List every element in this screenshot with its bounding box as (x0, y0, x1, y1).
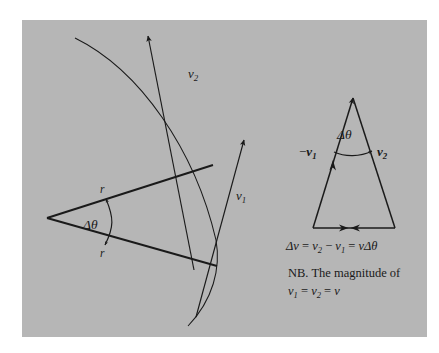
radius-label-lower: r (100, 247, 105, 259)
note-line-magnitude: NB. The magnitude of (288, 266, 401, 280)
radius-label-upper: r (100, 183, 105, 195)
figure-panel (22, 20, 427, 337)
delta-theta-label-left: Δθ (82, 217, 98, 232)
delta-v-equation: Δv = v2 − v1 = vΔθ (285, 239, 378, 255)
delta-theta-label-right: Δθ (336, 127, 352, 142)
figure-container: r r Δθ v2 v1 Δθ −v1 (0, 0, 439, 353)
physics-figure: r r Δθ v2 v1 Δθ −v1 (0, 0, 439, 353)
